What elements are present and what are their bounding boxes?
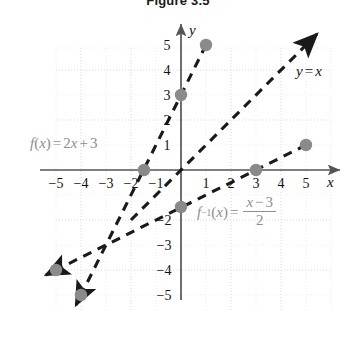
xtick-3: 3 [249, 176, 263, 192]
line-identity [131, 34, 317, 220]
xtick-4: 4 [274, 176, 288, 192]
f-variable: x [39, 135, 46, 151]
identity-x: x [315, 63, 322, 79]
ytick-3: 3 [160, 88, 174, 104]
finv-num-minus: − [253, 194, 265, 210]
point-3-0 [250, 164, 262, 176]
xtick-neg4: −4 [73, 176, 89, 192]
finv-fraction: x−32 [243, 195, 276, 228]
point-neg1p5-0 [138, 164, 150, 176]
ytick-5: 5 [160, 38, 174, 54]
xtick-1: 1 [199, 176, 213, 192]
finv-variable: x [216, 205, 223, 220]
xtick-5: 5 [299, 176, 313, 192]
xtick-neg2: −2 [123, 176, 139, 192]
f-equals: = [51, 135, 63, 151]
identity-line-label: y=x [296, 64, 322, 79]
xtick-2: 2 [224, 176, 238, 192]
ytick-neg3: −3 [154, 238, 174, 254]
f-coefficient: 2 [63, 135, 71, 151]
point-5-1 [300, 139, 312, 151]
ytick-4: 4 [160, 63, 174, 79]
point-0-neg1p5 [175, 201, 187, 213]
ytick-2: 2 [160, 113, 174, 129]
f-plus: + [77, 135, 89, 151]
y-axis-label: y [189, 22, 196, 39]
function-f-inverse-label: f−1(x)=x−32 [197, 196, 276, 229]
xtick-neg1: −1 [148, 176, 164, 192]
finv-num-const: 3 [266, 194, 274, 210]
ytick-neg5: −5 [154, 288, 174, 304]
finv-numerator: x−3 [243, 195, 276, 211]
identity-equals: = [303, 63, 315, 79]
x-axis-label: x [327, 174, 334, 191]
coordinate-plane [0, 0, 356, 337]
point-neg5-neg4 [50, 264, 62, 276]
xtick-neg3: −3 [98, 176, 114, 192]
ytick-neg2: −2 [154, 213, 174, 229]
xtick-neg5: −5 [48, 176, 64, 192]
point-neg4-neg5 [75, 289, 87, 301]
point-1-5 [200, 39, 212, 51]
identity-y: y [296, 63, 303, 79]
figure-container: Figure 3.5 [0, 0, 356, 337]
finv-denominator: 2 [243, 211, 276, 229]
function-f-label: f(x)=2x+3 [30, 136, 97, 151]
f-constant: 3 [90, 135, 98, 151]
ytick-1: 1 [160, 138, 174, 154]
finv-equals: = [228, 205, 240, 220]
ytick-neg4: −4 [154, 263, 174, 279]
point-0-3 [175, 89, 187, 101]
